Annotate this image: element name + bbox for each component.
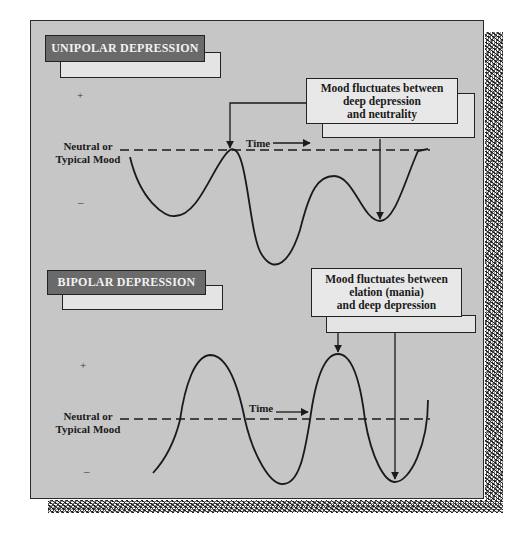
unipolar-mood-curve bbox=[130, 149, 428, 265]
unipolar-peak-pointer bbox=[230, 103, 306, 148]
diagram-lines bbox=[0, 0, 531, 542]
